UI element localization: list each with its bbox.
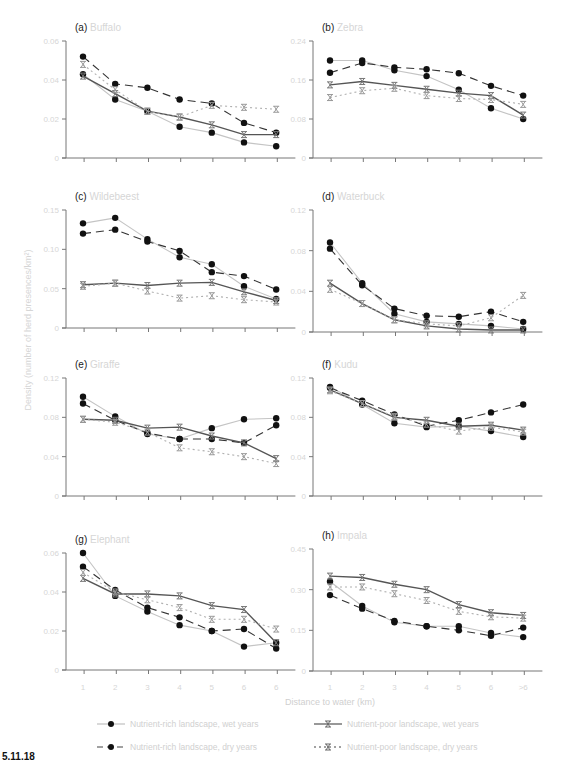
panel-title: (h) Impala bbox=[322, 530, 367, 541]
y-tick-label: 0.30 bbox=[290, 586, 306, 595]
x-tick-label: 2 bbox=[360, 683, 365, 692]
legend-label: Nutrient-rich landscape, dry years bbox=[130, 742, 257, 752]
series-line bbox=[83, 397, 276, 439]
small-multiples-line-chart: 00.020.040.06(a) Buffalo00.080.160.24(b)… bbox=[0, 0, 563, 764]
panel-wildebeest: 00.050.100.15(c) Wildebeest bbox=[43, 191, 295, 333]
y-tick-label: 0.12 bbox=[290, 206, 306, 215]
y-tick-label: 0.08 bbox=[290, 115, 306, 124]
y-tick-label: 0.04 bbox=[43, 453, 59, 462]
y-tick-label: 0.45 bbox=[290, 545, 306, 554]
y-tick-label: 0.10 bbox=[43, 245, 59, 254]
series-line bbox=[83, 553, 276, 647]
panel-title: (c) Wildebeest bbox=[75, 191, 139, 202]
x-tick-label: 5 bbox=[457, 683, 462, 692]
y-tick-label: 0 bbox=[55, 492, 60, 501]
series-line bbox=[83, 57, 276, 133]
x-tick-label: 4 bbox=[424, 683, 429, 692]
series-line bbox=[83, 74, 276, 146]
x-tick-label: 6 bbox=[489, 683, 494, 692]
y-tick-label: 0 bbox=[302, 667, 307, 676]
panel-kudu: 00.040.080.12(f) Kudu bbox=[290, 359, 542, 501]
y-tick-label: 0.02 bbox=[43, 627, 59, 636]
x-tick-label: 1 bbox=[81, 683, 86, 692]
y-tick-label: 0.15 bbox=[43, 206, 59, 215]
y-tick-label: 0.08 bbox=[290, 413, 306, 422]
panel-elephant: 00.020.040.06(g) Elephant bbox=[43, 534, 295, 675]
y-tick-label: 0 bbox=[55, 154, 60, 163]
y-tick-label: 0.04 bbox=[290, 287, 306, 296]
x-tick-label: 5 bbox=[210, 683, 215, 692]
y-tick-label: 0 bbox=[302, 154, 307, 163]
y-tick-label: 0.06 bbox=[43, 37, 59, 46]
panel-giraffe: 00.040.080.12(e) Giraffe bbox=[43, 359, 295, 501]
legend-item: Nutrient-poor landscape, wet years bbox=[314, 719, 479, 729]
y-tick-label: 0.15 bbox=[290, 626, 306, 635]
y-tick-label: 0 bbox=[55, 324, 60, 333]
y-tick-label: 0 bbox=[302, 328, 307, 337]
y-tick-label: 0.02 bbox=[43, 115, 59, 124]
x-tick-label: 3 bbox=[392, 683, 397, 692]
y-tick-label: 0.06 bbox=[43, 549, 59, 558]
panel-title: (a) Buffalo bbox=[75, 22, 121, 33]
panel-title: (b) Zebra bbox=[322, 22, 364, 33]
series-line bbox=[83, 573, 276, 630]
y-tick-label: 0.24 bbox=[290, 37, 306, 46]
x-tick-label: 6 bbox=[274, 683, 279, 692]
panel-title: (e) Giraffe bbox=[75, 359, 120, 370]
y-tick-label: 0.08 bbox=[290, 247, 306, 256]
x-tick-label: 3 bbox=[145, 683, 150, 692]
y-tick-label: 0 bbox=[55, 666, 60, 675]
panel-buffalo: 00.020.040.06(a) Buffalo bbox=[43, 22, 295, 163]
figure-caption: 5.11.18 bbox=[2, 751, 35, 762]
panel-impala: 00.150.300.45(h) Impala bbox=[290, 530, 542, 676]
legend-label: Nutrient-rich landscape, wet years bbox=[130, 719, 259, 729]
legend-label: Nutrient-poor landscape, dry years bbox=[347, 742, 477, 752]
panel-zebra: 00.080.160.24(b) Zebra bbox=[290, 22, 542, 163]
legend-item: Nutrient-rich landscape, wet years bbox=[97, 719, 259, 729]
y-tick-label: 0 bbox=[302, 492, 307, 501]
y-axis-label: Density (number of herd presences/km²) bbox=[23, 249, 33, 410]
x-axis-label: Distance to water (km) bbox=[285, 697, 375, 707]
y-tick-label: 0.04 bbox=[43, 76, 59, 85]
x-tick-label: 6 bbox=[242, 683, 247, 692]
x-tick-label: 1 bbox=[328, 683, 333, 692]
panel-waterbuck: 00.040.080.12(d) Waterbuck bbox=[290, 191, 542, 337]
series-line bbox=[330, 249, 523, 322]
series-line bbox=[330, 576, 523, 615]
y-tick-label: 0.08 bbox=[43, 413, 59, 422]
panel-title: (f) Kudu bbox=[322, 359, 358, 370]
y-tick-label: 0.04 bbox=[290, 453, 306, 462]
x-tick-label: >6 bbox=[519, 683, 529, 692]
y-tick-label: 0.12 bbox=[43, 374, 59, 383]
x-tick-label: 4 bbox=[177, 683, 182, 692]
panel-title: (d) Waterbuck bbox=[322, 191, 385, 202]
legend-item: Nutrient-poor landscape, dry years bbox=[314, 742, 477, 752]
legend-label: Nutrient-poor landscape, wet years bbox=[347, 719, 479, 729]
y-tick-label: 0.16 bbox=[290, 76, 306, 85]
x-tick-label: 2 bbox=[113, 683, 118, 692]
panel-title: (g) Elephant bbox=[75, 534, 130, 545]
series-line bbox=[83, 64, 276, 117]
y-tick-label: 0.04 bbox=[43, 588, 59, 597]
y-tick-label: 0.12 bbox=[290, 374, 306, 383]
legend-item: Nutrient-rich landscape, dry years bbox=[97, 742, 257, 752]
y-tick-label: 0.05 bbox=[43, 285, 59, 294]
